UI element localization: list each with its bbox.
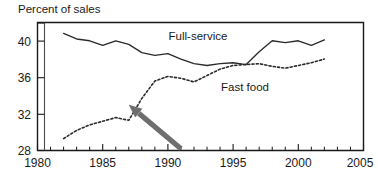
x-tick-label-2005: 2005 bbox=[347, 156, 374, 170]
x-tick-label-1990: 1990 bbox=[155, 156, 182, 170]
x-tick-label-1985: 1985 bbox=[89, 156, 116, 170]
annotation-arrow bbox=[129, 105, 181, 149]
y-axis-ticks bbox=[38, 23, 45, 151]
y-axis-tick-labels: 40 36 32 28 bbox=[18, 35, 32, 158]
chart-axis-title: Percent of sales bbox=[18, 3, 101, 15]
x-axis-ticks bbox=[38, 144, 364, 151]
x-tick-label-1995: 1995 bbox=[220, 156, 247, 170]
y-tick-label-36: 36 bbox=[18, 71, 32, 85]
x-tick-label-2000: 2000 bbox=[285, 156, 312, 170]
percent-of-sales-line-chart: Percent of sales 40 36 32 28 1980 bbox=[0, 0, 378, 177]
y-tick-label-32: 32 bbox=[18, 108, 32, 122]
x-tick-label-1980: 1980 bbox=[24, 156, 51, 170]
chart-figure: Percent of sales 40 36 32 28 1980 bbox=[0, 0, 378, 177]
y-tick-label-40: 40 bbox=[18, 35, 32, 49]
x-axis-tick-labels: 1980 1985 1990 1995 2000 2005 bbox=[24, 156, 374, 170]
series-line-fast-food bbox=[64, 59, 325, 139]
series-label-full-service: Full-service bbox=[169, 30, 228, 42]
series-label-fast-food: Fast food bbox=[221, 81, 269, 93]
